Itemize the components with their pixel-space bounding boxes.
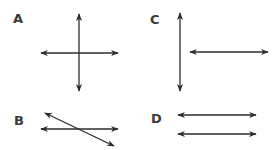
panel-c-lines	[180, 13, 268, 91]
lines-diagram	[0, 0, 280, 150]
panel-b-lines	[41, 113, 118, 146]
panel-a-lines	[41, 14, 118, 91]
panel-d-lines	[178, 115, 256, 134]
